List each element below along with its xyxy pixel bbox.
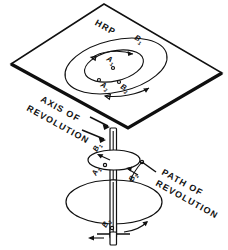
center-point-marker (112, 67, 115, 70)
hrp-plane-label: HRP (93, 18, 117, 38)
diagram-svg: HRP B 1 A 1 A 2 B 2 AXIS OF REVOLUTION (0, 0, 228, 250)
path-leader-line (142, 162, 156, 172)
axis-of-revolution-label-group: AXIS OF REVOLUTION (25, 94, 110, 146)
point-a-top-label: A 1 (103, 53, 116, 67)
upper-disk-group (88, 150, 140, 170)
disk-a-marker (103, 163, 106, 166)
technical-diagram-figure: HRP B 1 A 1 A 2 B 2 AXIS OF REVOLUTION (0, 0, 228, 250)
point-b-bottom-marker (118, 81, 121, 84)
point-b-top-label: B 1 (132, 33, 145, 46)
point-b-bottom-label: B 2 (118, 82, 131, 95)
point-a-bottom-marker (98, 79, 101, 82)
lower-b-marker (110, 226, 113, 229)
axis-leader-line (90, 117, 108, 126)
disk-b-right-arrow (126, 167, 138, 175)
upper-disk (88, 150, 140, 170)
hrp-outer-circle (59, 29, 172, 103)
